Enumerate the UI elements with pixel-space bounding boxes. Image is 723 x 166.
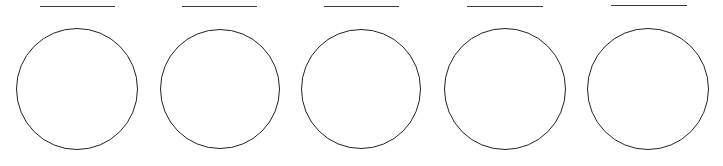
answer-line-1[interactable] — [40, 6, 115, 7]
empty-circle-4[interactable] — [444, 28, 566, 150]
empty-circle-1[interactable] — [16, 28, 138, 150]
answer-line-4[interactable] — [467, 6, 543, 7]
answer-line-5[interactable] — [611, 5, 687, 6]
empty-circle-5[interactable] — [587, 28, 709, 150]
answer-line-3[interactable] — [324, 6, 399, 7]
empty-circle-2[interactable] — [160, 29, 280, 149]
answer-line-2[interactable] — [182, 6, 257, 7]
empty-circle-3[interactable] — [301, 29, 421, 149]
